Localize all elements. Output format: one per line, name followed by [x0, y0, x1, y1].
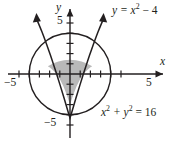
- x-axis-arrow-icon: [156, 71, 164, 78]
- y-tick-label-negative-5: −5: [44, 117, 56, 129]
- parabola-eq-lhs: y = x: [112, 4, 136, 16]
- x-tick-label-negative-5: −5: [4, 77, 16, 89]
- y-axis-arrow-icon: [67, 9, 74, 17]
- circle-eq-mid: + y: [110, 106, 129, 118]
- y-axis-label: y: [56, 2, 61, 14]
- circle-equation-label: x2 + y2 = 16: [101, 107, 156, 119]
- parabola-right-arrow-icon: [99, 13, 107, 23]
- parabola-equation-label: y = x2 − 4: [112, 5, 158, 17]
- y-tick-label-positive-5: 5: [57, 15, 63, 27]
- circle-eq-end: = 16: [133, 106, 157, 118]
- coordinate-plane-svg: [0, 0, 185, 145]
- x-tick-label-positive-5: 5: [146, 77, 152, 89]
- graph-figure: y = x2 − 4 x2 + y2 = 16 x y −5 5 5 −5: [0, 0, 185, 145]
- parabola-left-arrow-icon: [33, 13, 41, 23]
- x-axis-label: x: [160, 56, 165, 68]
- parabola-eq-rhs: − 4: [140, 4, 158, 16]
